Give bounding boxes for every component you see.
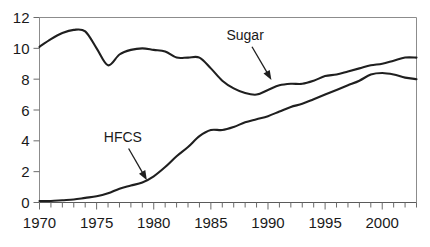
chart-container: 024681012 1970197519801985199019952000 S… — [0, 0, 430, 247]
x-tick-label: 1970 — [23, 214, 56, 231]
x-tick-label: 1995 — [308, 214, 341, 231]
x-tick-label: 2000 — [366, 214, 399, 231]
y-tick-label: 2 — [21, 163, 29, 180]
y-tick-label: 8 — [21, 71, 29, 88]
x-tick-label: 1985 — [194, 214, 227, 231]
y-tick-label: 10 — [13, 40, 30, 57]
consumption-line-chart: 024681012 1970197519801985199019952000 S… — [0, 0, 430, 247]
y-tick-label: 0 — [21, 194, 29, 211]
x-tick-label: 1980 — [137, 214, 170, 231]
x-tick-label: 1975 — [80, 214, 113, 231]
annotation-label-sugar: Sugar — [226, 27, 264, 43]
y-tick-label: 4 — [21, 132, 29, 149]
chart-background — [0, 0, 430, 247]
y-tick-label: 6 — [21, 102, 29, 119]
annotation-label-hfcs: HFCS — [104, 129, 142, 145]
y-tick-label: 12 — [13, 9, 30, 26]
x-tick-label: 1990 — [251, 214, 284, 231]
